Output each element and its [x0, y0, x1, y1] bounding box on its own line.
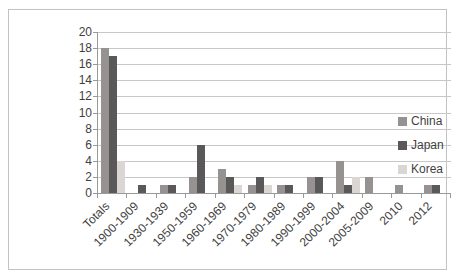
- x-axis-tick-8: [332, 194, 333, 198]
- x-axis-tick-10: [391, 194, 392, 198]
- bar-china-2005-2009: [365, 177, 373, 193]
- x-axis-tick-2: [156, 194, 157, 198]
- bar-china-1960-1969: [218, 169, 226, 193]
- x-axis-tick-5: [244, 194, 245, 198]
- bar-japan-1930-1939: [168, 185, 176, 193]
- bar-korea-1970-1979: [264, 185, 272, 193]
- y-axis-tick-16: [93, 64, 97, 65]
- y-axis-label-14: 14: [62, 74, 92, 86]
- bar-japan-2000-2004: [344, 185, 352, 193]
- legend-item-japan: Japan: [398, 138, 444, 152]
- y-axis-label-8: 8: [62, 123, 92, 135]
- bar-china-2000-2004: [336, 161, 344, 193]
- y-axis-tick-20: [93, 32, 97, 33]
- x-axis-tick-11: [421, 194, 422, 198]
- legend-label-japan: Japan: [411, 138, 444, 152]
- y-axis-label-10: 10: [62, 107, 92, 119]
- y-axis-label-20: 20: [62, 26, 92, 38]
- y-axis-label-6: 6: [62, 139, 92, 151]
- chart-frame: 02468101214161820 Totals1900-19091930-19…: [8, 9, 447, 270]
- y-axis-tick-10: [93, 113, 97, 114]
- bar-korea-1960-1969: [234, 185, 242, 193]
- y-axis-tick-4: [93, 161, 97, 162]
- y-axis-label-2: 2: [62, 171, 92, 183]
- y-axis-tick-2: [93, 177, 97, 178]
- bar-china-1950-1959: [189, 177, 197, 193]
- x-axis-label-2012: 2012: [406, 199, 435, 228]
- bar-japan-1980-1989: [285, 185, 293, 193]
- bar-china-2012: [424, 185, 432, 193]
- x-axis-label-2010: 2010: [377, 199, 406, 228]
- legend-item-korea: Korea: [398, 162, 443, 176]
- bar-china-1990-1999: [307, 177, 315, 193]
- gridline-y-14: [98, 80, 451, 81]
- y-axis-label-18: 18: [62, 42, 92, 54]
- x-axis-tick-12: [450, 194, 451, 198]
- gridline-y-18: [98, 48, 451, 49]
- y-axis-label-16: 16: [62, 58, 92, 70]
- gridline-y-8: [98, 129, 451, 130]
- legend-item-china: China: [398, 114, 442, 128]
- legend-swatch-china: [398, 117, 407, 126]
- y-axis-label-4: 4: [62, 155, 92, 167]
- bar-china-1970-1979: [248, 185, 256, 193]
- bar-korea-totals: [117, 161, 125, 193]
- bar-china-totals: [101, 48, 109, 193]
- y-axis-label-12: 12: [62, 90, 92, 102]
- y-axis-label-0: 0: [62, 187, 92, 199]
- x-axis-tick-7: [303, 194, 304, 198]
- bar-japan-1990-1999: [315, 177, 323, 193]
- bar-japan-1950-1959: [197, 145, 205, 193]
- bar-korea-2000-2004: [352, 177, 360, 193]
- x-axis-tick-0: [97, 194, 98, 198]
- x-axis-tick-3: [185, 194, 186, 198]
- gridline-y-16: [98, 64, 451, 65]
- gridline-y-20: [98, 32, 451, 33]
- x-axis-tick-6: [274, 194, 275, 198]
- legend-label-china: China: [411, 114, 442, 128]
- legend-swatch-japan: [398, 141, 407, 150]
- y-axis-tick-6: [93, 145, 97, 146]
- gridline-y-2: [98, 177, 451, 178]
- y-axis-tick-14: [93, 80, 97, 81]
- bar-japan-2012: [432, 185, 440, 193]
- bar-japan-1970-1979: [256, 177, 264, 193]
- y-axis-tick-18: [93, 48, 97, 49]
- x-axis-tick-1: [126, 194, 127, 198]
- x-axis-tick-4: [215, 194, 216, 198]
- bar-china-1930-1939: [160, 185, 168, 193]
- y-axis-tick-8: [93, 129, 97, 130]
- bar-china-2010: [395, 185, 403, 193]
- y-axis-tick-12: [93, 96, 97, 97]
- x-axis-tick-9: [362, 194, 363, 198]
- legend-swatch-korea: [398, 165, 407, 174]
- gridline-y-12: [98, 96, 451, 97]
- legend-label-korea: Korea: [411, 162, 443, 176]
- bar-japan-1960-1969: [226, 177, 234, 193]
- bar-japan-totals: [109, 56, 117, 193]
- bar-japan-1900-1909: [138, 185, 146, 193]
- bar-china-1980-1989: [277, 185, 285, 193]
